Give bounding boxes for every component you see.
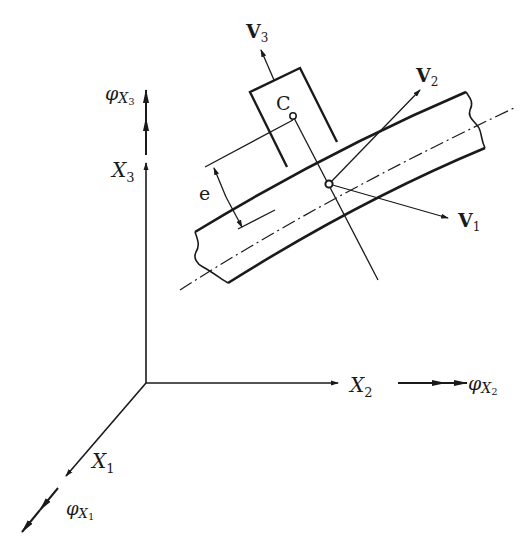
beam-right-break [466,92,485,148]
curved-beam [180,92,514,290]
extension-line-bottom [238,210,275,229]
x2-label: X2 [348,373,373,400]
v2-vector [329,90,420,184]
phi-x2-label: φX2 [468,372,498,397]
phi-x1-label: φX1 [66,498,94,522]
rotation-arrows [22,90,467,532]
global-axes [66,163,338,476]
eccentricity-dimension [205,120,293,229]
v3-label: V3 [245,20,268,45]
beam-centerline [180,108,514,290]
point-c [290,113,296,119]
v1-label: V1 [457,209,480,234]
v2-label: V2 [415,64,438,89]
v3-vector [261,50,274,80]
x1-label: X1 [90,449,115,476]
beam-bottom-edge [228,148,485,283]
x3-label: X3 [110,158,135,185]
phi-x3-label: φX3 [105,82,135,107]
beam-coordinate-diagram: φX3 X3 X2 φX2 X1 φX1 V3 V2 V1 C e [0,0,531,547]
point-c-label: C [276,92,291,114]
extension-line-top [205,120,293,167]
dimension-arrow-up [214,168,226,197]
eccentricity-label: e [199,182,210,204]
phi-x1-double-arrow-icon [22,488,58,532]
beam-left-break [195,232,228,283]
beam-center-point [325,180,332,187]
